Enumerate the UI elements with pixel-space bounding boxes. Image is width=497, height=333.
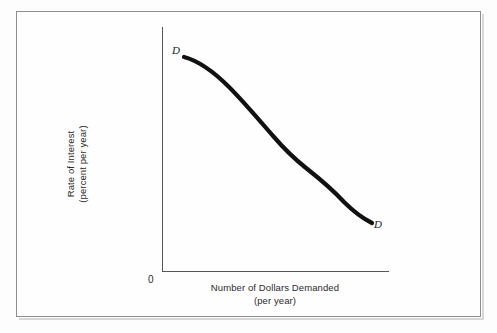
plot-area: Rate of Interest (percent per year) Numb…: [0, 0, 497, 333]
curve-label-start: D: [172, 44, 180, 56]
x-axis-label-line2: (per year): [175, 295, 375, 308]
x-axis-label: Number of Dollars Demanded (per year): [175, 282, 375, 307]
y-axis-label: Rate of Interest (percent per year): [65, 84, 89, 244]
y-axis-label-line1: Rate of Interest: [65, 84, 77, 244]
x-axis-label-line1: Number of Dollars Demanded: [175, 282, 375, 295]
demand-curve-path: [184, 57, 372, 223]
figure-root: Rate of Interest (percent per year) Numb…: [0, 0, 497, 333]
y-axis-label-line2: (percent per year): [77, 84, 89, 244]
origin-label: 0: [148, 274, 154, 285]
curve-label-end: D: [374, 218, 382, 230]
